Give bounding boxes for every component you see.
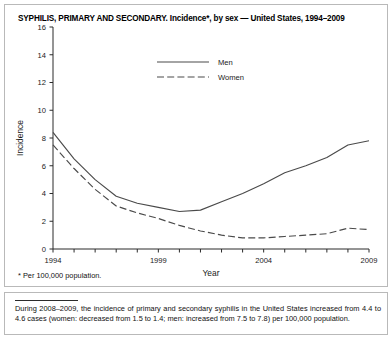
y-tick-label: 14 bbox=[38, 51, 46, 60]
note-text: During 2008–2009, the incidence of prima… bbox=[15, 304, 381, 325]
series-line-women bbox=[53, 145, 369, 238]
x-axis-label: Year bbox=[203, 268, 220, 278]
y-tick-label: 10 bbox=[38, 106, 46, 115]
series-line-men bbox=[53, 132, 369, 211]
y-tick-label: 8 bbox=[42, 134, 46, 143]
y-tick-label: 6 bbox=[42, 162, 46, 171]
note-divider bbox=[15, 300, 78, 301]
figure-container: SYPHILIS, PRIMARY AND SECONDARY. Inciden… bbox=[0, 0, 392, 339]
y-tick-label: 2 bbox=[42, 217, 46, 226]
chart-panel: SYPHILIS, PRIMARY AND SECONDARY. Inciden… bbox=[4, 4, 388, 287]
y-tick-label: 0 bbox=[42, 245, 46, 254]
legend-label-men: Men bbox=[218, 58, 233, 67]
y-axis-label: Incidence bbox=[15, 120, 25, 156]
y-tick-label: 12 bbox=[38, 78, 46, 87]
y-tick-label: 16 bbox=[38, 23, 46, 32]
x-tick-label: 1994 bbox=[45, 256, 62, 265]
x-tick-label: 2009 bbox=[361, 256, 378, 265]
footnote: * Per 100,000 population. bbox=[18, 271, 101, 280]
chart-plot: 02468101214161994199920042009YearInciden… bbox=[5, 5, 389, 288]
note-panel: During 2008–2009, the incidence of prima… bbox=[4, 292, 388, 335]
x-tick-label: 1999 bbox=[150, 256, 167, 265]
x-tick-label: 2004 bbox=[255, 256, 272, 265]
legend-label-women: Women bbox=[218, 73, 244, 82]
y-tick-label: 4 bbox=[42, 189, 46, 198]
